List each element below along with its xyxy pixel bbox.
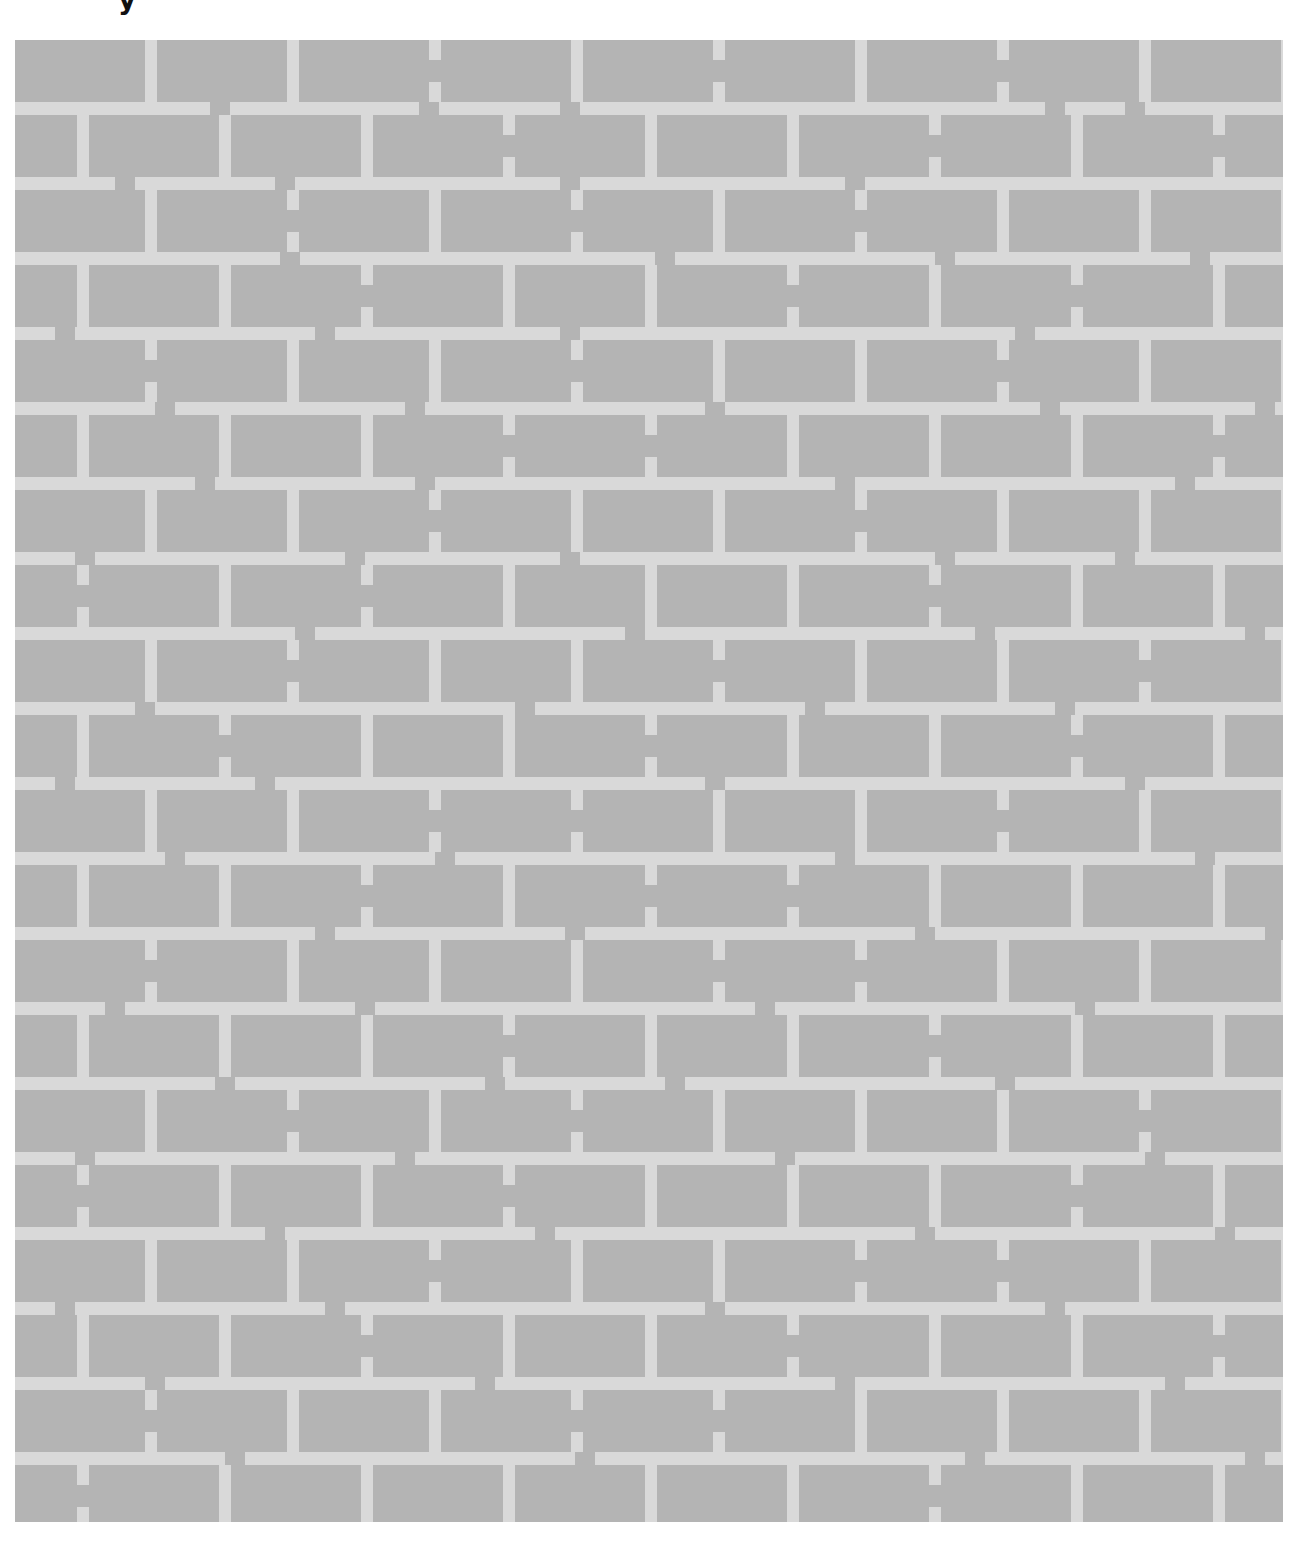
mortar-vertical-joint — [287, 490, 299, 552]
joint-break — [144, 360, 158, 382]
joint-break — [570, 1410, 584, 1432]
mortar-vertical-joint — [645, 1315, 657, 1377]
mortar-vertical-joint — [219, 1315, 231, 1377]
band-gap — [835, 1377, 855, 1390]
mortar-vertical-joint — [855, 40, 867, 102]
band-gap — [1045, 102, 1065, 115]
joint-break — [712, 960, 726, 982]
mortar-vertical-joint — [503, 715, 515, 777]
band-gap — [1215, 1227, 1235, 1240]
band-gap — [515, 702, 535, 715]
mortar-vertical-joint — [503, 865, 515, 927]
mortar-vertical-joint — [429, 1390, 441, 1452]
band-gap — [1045, 1302, 1065, 1315]
joint-break — [360, 885, 374, 907]
joint-break — [286, 210, 300, 232]
mortar-vertical-joint — [1281, 1090, 1283, 1152]
mortar-vertical-joint — [145, 40, 157, 102]
joint-break — [1212, 435, 1226, 457]
joint-break — [502, 435, 516, 457]
mortar-vertical-joint — [361, 415, 373, 477]
joint-break — [570, 360, 584, 382]
band-gap — [915, 927, 935, 940]
mortar-vertical-joint — [287, 340, 299, 402]
mortar-horizontal-band — [15, 627, 1283, 640]
band-gap — [1125, 777, 1145, 790]
joint-break — [712, 1410, 726, 1432]
mortar-vertical-joint — [1213, 565, 1225, 627]
joint-break — [712, 660, 726, 682]
band-gap — [325, 1302, 345, 1315]
mortar-vertical-joint — [429, 340, 441, 402]
mortar-vertical-joint — [287, 40, 299, 102]
mortar-horizontal-band — [15, 252, 1283, 265]
band-gap — [1075, 1002, 1095, 1015]
joint-break — [928, 585, 942, 607]
joint-break — [1070, 285, 1084, 307]
mortar-vertical-joint — [1281, 340, 1283, 402]
band-gap — [705, 402, 725, 415]
mortar-vertical-joint — [571, 940, 583, 1002]
mortar-vertical-joint — [929, 715, 941, 777]
mortar-vertical-joint — [77, 415, 89, 477]
mortar-vertical-joint — [1213, 265, 1225, 327]
mortar-vertical-joint — [219, 265, 231, 327]
band-gap — [835, 852, 855, 865]
band-gap — [115, 177, 135, 190]
mortar-vertical-joint — [219, 565, 231, 627]
joint-break — [286, 1110, 300, 1132]
brick-wall-figure — [15, 40, 1283, 1522]
mortar-vertical-joint — [287, 790, 299, 852]
mortar-vertical-joint — [713, 490, 725, 552]
joint-break — [996, 810, 1010, 832]
band-gap — [1125, 102, 1145, 115]
mortar-vertical-joint — [1071, 115, 1083, 177]
band-gap — [775, 1152, 795, 1165]
mortar-vertical-joint — [429, 190, 441, 252]
band-gap — [935, 252, 955, 265]
joint-break — [502, 135, 516, 157]
mortar-vertical-joint — [1281, 640, 1283, 702]
caption-fragment: y — [118, 0, 136, 14]
mortar-vertical-joint — [219, 415, 231, 477]
mortar-vertical-joint — [1071, 1015, 1083, 1077]
mortar-horizontal-band — [15, 1452, 1283, 1465]
band-gap — [975, 627, 995, 640]
joint-break — [1070, 735, 1084, 757]
mortar-vertical-joint — [787, 115, 799, 177]
band-gap — [225, 1452, 245, 1465]
mortar-vertical-joint — [361, 1015, 373, 1077]
mortar-vertical-joint — [1281, 1240, 1283, 1302]
band-gap — [915, 1227, 935, 1240]
mortar-vertical-joint — [713, 190, 725, 252]
band-gap — [75, 1152, 95, 1165]
band-gap — [155, 402, 175, 415]
joint-break — [428, 1260, 442, 1282]
joint-break — [1212, 135, 1226, 157]
band-gap — [435, 852, 455, 865]
band-gap — [475, 1377, 495, 1390]
band-gap — [535, 1227, 555, 1240]
band-gap — [995, 1077, 1015, 1090]
mortar-vertical-joint — [787, 1165, 799, 1227]
band-gap — [55, 1302, 75, 1315]
joint-break — [786, 285, 800, 307]
mortar-vertical-joint — [929, 1165, 941, 1227]
band-gap — [165, 852, 185, 865]
mortar-vertical-joint — [1213, 1165, 1225, 1227]
mortar-vertical-joint — [145, 1090, 157, 1152]
band-gap — [560, 102, 580, 115]
mortar-vertical-joint — [1281, 1390, 1283, 1452]
band-gap — [1055, 702, 1075, 715]
mortar-horizontal-band — [15, 777, 1283, 790]
mortar-horizontal-band — [15, 852, 1283, 865]
band-gap — [655, 252, 675, 265]
band-gap — [845, 177, 865, 190]
mortar-vertical-joint — [77, 1015, 89, 1077]
mortar-vertical-joint — [1213, 1015, 1225, 1077]
joint-break — [360, 585, 374, 607]
band-gap — [275, 177, 295, 190]
band-gap — [1015, 327, 1035, 340]
band-gap — [1115, 552, 1135, 565]
mortar-vertical-joint — [503, 1315, 515, 1377]
